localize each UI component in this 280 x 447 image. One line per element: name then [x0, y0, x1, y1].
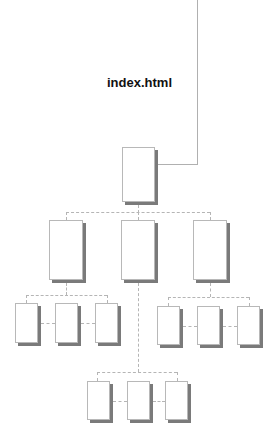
left-group-link-2	[81, 323, 95, 324]
left-group-branch-line	[26, 295, 107, 296]
level2-left-drop	[66, 212, 67, 220]
root-page-title: index.html	[107, 75, 172, 90]
left-group-connector	[66, 283, 67, 295]
bottom-group-drop-1	[97, 372, 98, 381]
callout-line-horizontal	[158, 164, 198, 165]
level2-middle-node[interactable]	[121, 220, 155, 280]
left-group-drop-3	[107, 295, 108, 303]
right-group-node-3[interactable]	[237, 306, 260, 345]
callout-line-vertical	[197, 0, 198, 165]
left-group-link-1	[41, 323, 55, 324]
left-group-node-1[interactable]	[15, 303, 38, 343]
bottom-group-link-1	[113, 401, 127, 402]
right-group-connector	[210, 283, 211, 297]
bottom-group-node-2[interactable]	[127, 381, 150, 420]
right-group-drop-1	[168, 297, 169, 306]
right-group-node-2[interactable]	[197, 306, 220, 345]
level2-left-node[interactable]	[49, 220, 83, 280]
level2-right-node[interactable]	[193, 220, 227, 280]
left-group-drop-1	[26, 295, 27, 303]
bottom-group-branch-line	[97, 372, 177, 373]
bottom-group-node-1[interactable]	[87, 381, 110, 420]
right-group-drop-3	[249, 297, 250, 306]
bottom-group-link-2	[153, 401, 165, 402]
root-page-node[interactable]	[122, 147, 155, 202]
right-group-branch-line	[168, 297, 249, 298]
right-group-link-2	[223, 326, 237, 327]
bottom-group-connector	[138, 283, 139, 372]
right-group-node-1[interactable]	[157, 306, 180, 345]
left-group-node-2[interactable]	[55, 303, 78, 343]
level2-middle-drop	[138, 212, 139, 220]
right-group-link-1	[183, 326, 197, 327]
level2-right-drop	[210, 212, 211, 220]
bottom-group-node-3[interactable]	[165, 381, 188, 420]
bottom-group-drop-3	[177, 372, 178, 381]
left-group-node-3[interactable]	[95, 303, 118, 343]
